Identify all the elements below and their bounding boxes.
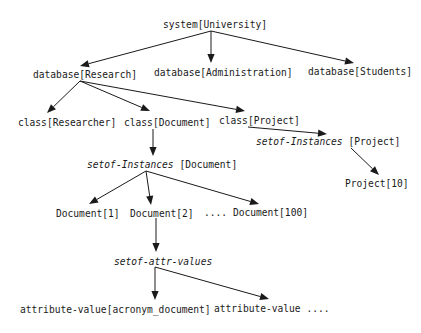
node-label: Document[2] — [130, 208, 194, 219]
node-label-italic: setof-Instances — [256, 136, 343, 147]
node-database-administration: database[Administration] — [154, 67, 293, 78]
edge-setof-document-to-document2 — [146, 171, 150, 196]
node-document-1: Document[1] — [56, 208, 120, 219]
node-label: database[Students] — [308, 66, 412, 77]
arrowhead-icon — [344, 58, 354, 65]
node-database-research: database[Research] — [33, 69, 137, 80]
edge-university-to-students — [211, 31, 345, 61]
arrowhead-icon — [149, 147, 156, 156]
arrowhead-icon — [249, 198, 259, 205]
node-label: [Project] — [343, 136, 401, 147]
arrowhead-icon — [152, 243, 159, 252]
arrowhead-icon — [80, 60, 90, 67]
node-class-project: class[Project] — [219, 115, 300, 126]
edge-project-class-to-setof-project — [248, 127, 318, 133]
node-label: Project[10] — [345, 178, 409, 189]
arrowhead-icon — [89, 196, 99, 204]
node-label-italic: setof-Instances — [87, 159, 174, 170]
node-setof-attr-values: setof-attr-values — [114, 256, 212, 267]
arrowhead-icon — [140, 104, 150, 111]
edge-setof-document-to-document1 — [97, 171, 146, 199]
node-label: Document[1] — [56, 208, 120, 219]
arrowhead-icon — [259, 293, 269, 300]
edge-university-to-research — [89, 31, 211, 64]
node-label: database[Research] — [33, 69, 137, 80]
node-label: attribute-value[acronym_document] — [20, 304, 211, 315]
node-database-students: database[Students] — [308, 66, 412, 77]
node-project-10: Project[10] — [345, 178, 409, 189]
node-attribute-value-more: attribute-value .... — [214, 303, 330, 314]
node-label-italic: setof-attr-values — [114, 256, 212, 267]
node-label: class[Project] — [219, 115, 300, 126]
edge-research-to-project-class — [80, 81, 236, 109]
node-document-100: .... Document[100] — [204, 207, 308, 218]
node-label: class[Researcher] — [18, 117, 116, 128]
edge-research-to-researcher — [53, 81, 80, 107]
arrowhead-icon — [151, 291, 158, 300]
arrowhead-icon — [146, 196, 153, 205]
edge-setof-attr-to-attr-more — [155, 267, 260, 297]
node-document-2: Document[2] — [130, 208, 194, 219]
edge-setof-project-to-project10 — [351, 148, 373, 169]
node-label: database[Administration] — [154, 67, 293, 78]
diagram-canvas: system[University] database[Research] da… — [0, 0, 421, 333]
edge-research-to-document-class — [80, 81, 142, 107]
node-label: class[Document] — [124, 117, 211, 128]
node-attribute-value-acronym: attribute-value[acronym_document] — [20, 304, 211, 315]
node-system-university: system[University] — [163, 19, 267, 30]
node-label: .... Document[100] — [204, 207, 308, 218]
arrowhead-icon — [207, 54, 214, 63]
node-label: system[University] — [163, 19, 267, 30]
arrowhead-icon — [236, 106, 245, 113]
node-setof-instances-project: setof-Instances [Project] — [256, 136, 400, 147]
node-class-document: class[Document] — [124, 117, 211, 128]
edge-setof-document-to-document100 — [146, 171, 250, 201]
node-setof-instances-document: setof-Instances [Document] — [87, 159, 237, 170]
node-class-researcher: class[Researcher] — [18, 117, 116, 128]
node-label: [Document] — [174, 159, 238, 170]
node-label: attribute-value .... — [214, 303, 330, 314]
